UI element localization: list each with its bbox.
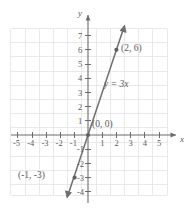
x-axis-arrowhead (171, 133, 177, 138)
point-label-neg1-neg3: (-1, -3) (18, 171, 45, 181)
y-axis-label: y (78, 9, 82, 18)
y-tick-neg3: -3 (77, 174, 84, 183)
y-tick-neg1: -1 (77, 145, 84, 154)
x-tick-neg3: -3 (41, 139, 48, 148)
y-tick-2: 2 (78, 103, 82, 112)
point-label-0-0: (0, 0) (92, 120, 113, 130)
x-tick-4: 4 (143, 139, 147, 148)
y-tick-6: 6 (78, 46, 82, 55)
x-axis-label: x (180, 135, 184, 144)
y-tick-5: 5 (78, 60, 82, 69)
x-tick-neg4: -4 (27, 139, 34, 148)
y-tick-1: 1 (78, 117, 82, 126)
equation-label: y = 3x (104, 80, 128, 90)
point-0-0 (86, 133, 90, 137)
line-lower-arrowhead (65, 190, 72, 198)
y-tick-neg4: -4 (77, 188, 84, 197)
y-tick-4: 4 (78, 74, 82, 83)
y-tick-7: 7 (78, 32, 82, 41)
y-tick-3: 3 (78, 89, 82, 98)
point-2-6 (114, 48, 118, 52)
x-tick-1: 1 (100, 139, 104, 148)
x-tick-2: 2 (114, 139, 118, 148)
x-tick-neg5: -5 (13, 139, 20, 148)
point-label-2-6: (2, 6) (121, 44, 142, 54)
y-tick-neg2: -2 (77, 160, 84, 169)
x-tick-3: 3 (129, 139, 133, 148)
x-tick-neg1: -1 (70, 139, 77, 148)
graph-figure: y x -5 -4 -3 -2 -1 1 2 3 4 5 1 2 3 4 5 6… (0, 0, 191, 209)
y-axis-arrowhead (86, 15, 91, 21)
x-tick-5: 5 (157, 139, 161, 148)
x-tick-neg2: -2 (56, 139, 63, 148)
